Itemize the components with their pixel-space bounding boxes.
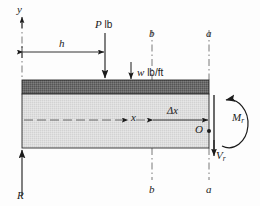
shear-subscript: r [223,154,226,163]
diagram-canvas [0,0,260,206]
distance-h-label: h [59,38,65,49]
delta-x-label: Δx [167,106,178,117]
moment-subscript: r [241,116,244,125]
origin-point-marker [207,129,211,133]
point-load-unit: lb [105,19,113,30]
section-b-top-label: b [149,28,155,39]
point-load-symbol: P [95,18,102,30]
distributed-load-unit: lb/ft [147,67,163,78]
beam-free-body-diagram: y P lb w lb/ft h x Δx b b a a O Mr Vr R [0,0,260,206]
distributed-load-label: w lb/ft [137,67,163,78]
y-axis-label: y [17,4,22,15]
origin-point-label: O [195,124,203,135]
moment-symbol: M [232,111,241,123]
section-a-bottom-label: a [206,184,212,195]
reaction-label: R [17,190,24,201]
distance-x-label: x [131,112,136,123]
section-a-top-label: a [206,28,212,39]
distributed-load-band [22,80,209,94]
shear-label: Vr [216,150,226,162]
section-b-bottom-label: b [149,184,155,195]
point-load-label: P lb [95,19,112,30]
moment-label: Mr [232,112,244,124]
shear-symbol: V [216,149,223,161]
beam-body [22,94,209,148]
